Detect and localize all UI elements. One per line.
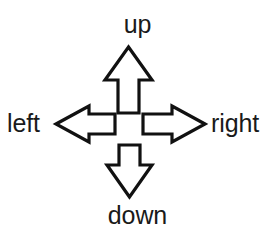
label-right: right <box>211 111 259 136</box>
direction-arrows-diagram: up left right down <box>0 0 275 240</box>
arrow-up-outline-icon <box>105 47 152 113</box>
label-up: up <box>0 12 275 37</box>
arrow-right-outline-icon <box>143 106 205 142</box>
arrow-left-outline-icon <box>56 106 115 142</box>
arrow-down-outline-icon <box>107 145 152 197</box>
label-down: down <box>0 203 275 228</box>
label-left: left <box>7 111 40 136</box>
